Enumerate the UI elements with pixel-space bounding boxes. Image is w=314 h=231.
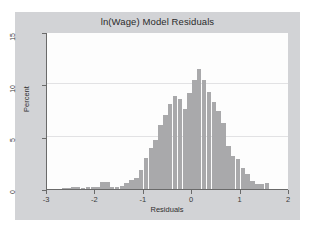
x-tick-label: 2 xyxy=(286,195,290,204)
histogram-bar xyxy=(163,115,167,189)
figure-container: ln(Wage) Model Residuals Percent 051015 … xyxy=(0,0,314,231)
histogram-bar xyxy=(95,187,99,189)
y-tick-label: 0 xyxy=(10,190,17,194)
x-tick-mark xyxy=(288,190,289,194)
histogram-bar xyxy=(100,182,104,189)
histogram-bar xyxy=(212,102,216,189)
histogram-bar xyxy=(66,188,70,189)
histogram-bar xyxy=(110,187,114,189)
y-axis: 051015 xyxy=(0,0,46,200)
histogram-bar xyxy=(216,111,220,190)
histogram-bar xyxy=(76,187,80,189)
histogram-bar xyxy=(91,187,95,189)
histogram-bar xyxy=(62,188,66,189)
histogram-bar xyxy=(245,174,249,189)
histogram-bar xyxy=(86,187,90,189)
histogram-bar xyxy=(187,93,191,189)
x-tick-label: -3 xyxy=(43,195,50,204)
plot-area xyxy=(46,33,288,190)
histogram-bar xyxy=(241,168,245,189)
x-tick-mark xyxy=(46,190,47,194)
histogram-bar xyxy=(134,178,138,190)
histogram-bar xyxy=(105,182,109,189)
x-axis-title: Residuals xyxy=(46,205,288,214)
histogram-bar xyxy=(144,158,148,189)
x-tick-mark xyxy=(240,190,241,194)
histogram-bar xyxy=(139,170,143,189)
histogram-bar xyxy=(202,80,206,189)
histogram-bar xyxy=(168,104,172,189)
x-tick-label: 0 xyxy=(189,195,193,204)
x-tick-mark xyxy=(143,190,144,194)
histogram-bar xyxy=(221,123,225,189)
y-tick-label: 15 xyxy=(10,33,17,41)
histogram-bar xyxy=(115,187,119,189)
histogram-bar xyxy=(124,183,128,189)
histogram-bar xyxy=(197,69,201,189)
histogram-bar xyxy=(71,187,75,189)
histogram-bar xyxy=(207,92,211,189)
histogram-bar xyxy=(226,146,230,189)
histogram-bar xyxy=(178,99,182,189)
histogram-bar xyxy=(183,109,187,189)
y-tick-label: 5 xyxy=(10,138,17,142)
histogram-bar xyxy=(149,148,153,189)
histogram-bar xyxy=(153,140,157,189)
histogram-bar xyxy=(260,184,264,189)
x-tick-mark xyxy=(94,190,95,194)
x-tick-label: 1 xyxy=(238,195,242,204)
histogram-bar xyxy=(255,184,259,189)
x-tick-label: -1 xyxy=(139,195,146,204)
x-tick-mark xyxy=(191,190,192,194)
histogram-bar xyxy=(129,180,133,189)
histogram-bar xyxy=(250,181,254,189)
histogram-bar xyxy=(192,80,196,189)
histogram-bar xyxy=(81,188,85,189)
histogram-bar xyxy=(265,183,269,189)
chart-title: ln(Wage) Model Residuals xyxy=(15,16,300,27)
histogram-bar xyxy=(120,186,124,189)
histogram-bar xyxy=(236,159,240,189)
histogram-bar xyxy=(173,96,177,189)
gridline xyxy=(47,83,288,84)
histogram-bar xyxy=(158,125,162,189)
x-tick-label: -2 xyxy=(91,195,98,204)
histogram-bar xyxy=(231,156,235,189)
plot-inner xyxy=(47,33,288,189)
y-tick-label: 10 xyxy=(10,85,17,93)
